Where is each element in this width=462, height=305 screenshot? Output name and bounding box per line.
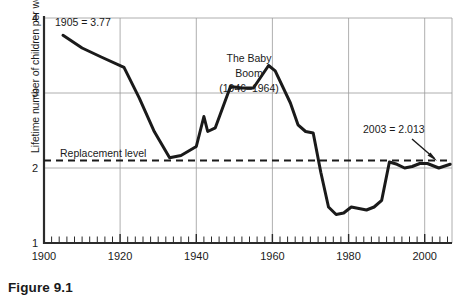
x-tick-label-1980: 1980 (336, 250, 360, 262)
fertility-rate-line-chart: 4 3 2 1 (0, 0, 462, 276)
x-tick-label-1960: 1960 (260, 250, 284, 262)
figure-caption: Figure 9.1 (8, 280, 73, 295)
y-tick-label-1: 1 (32, 237, 38, 249)
start-value-annotation: 1905 = 3.77 (55, 16, 111, 28)
end-value-annotation-text: 2003 = 2.013 (363, 123, 425, 135)
x-tick-label-1920: 1920 (108, 250, 132, 262)
y-tick-label-3: 3 (32, 87, 38, 99)
baby-boom-line-1: The Baby (227, 52, 273, 64)
x-tick-label-2000: 2000 (412, 250, 436, 262)
chart-plot-region: 4 3 2 1 (0, 0, 462, 276)
y-tick-label-4: 4 (32, 12, 38, 24)
figure-container: 4 3 2 1 (0, 0, 462, 305)
y-tick-label-2: 2 (32, 162, 38, 174)
replacement-level-label: Replacement level (60, 147, 146, 159)
x-tick-label-1900: 1900 (32, 250, 56, 262)
baby-boom-line-2: Boom (235, 67, 263, 79)
baby-boom-line-3: (1946–1964) (219, 82, 279, 94)
y-axis-tick-labels: 4 3 2 1 (32, 12, 38, 249)
x-axis-tick-labels: 1900 1920 1940 1960 1980 2000 (32, 250, 437, 262)
x-tick-label-1940: 1940 (184, 250, 208, 262)
